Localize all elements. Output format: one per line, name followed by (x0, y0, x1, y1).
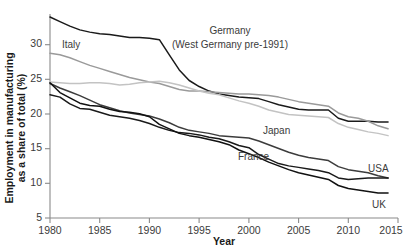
x-tick-label: 2000 (237, 224, 261, 236)
series-label-germany-sub: (West Germany pre-1991) (172, 39, 288, 50)
series-label-france: France (238, 151, 270, 162)
x-axis-ticks: 1980 1985 1990 1995 2000 2005 2010 2015 (38, 218, 403, 236)
y-axis-title-line1: Employment in manufacturing (3, 52, 15, 203)
x-tick-label: 1985 (88, 224, 112, 236)
y-tick-label: 30 (30, 37, 42, 49)
x-tick-label: 1990 (138, 224, 162, 236)
x-tick-label: 1995 (187, 224, 211, 236)
series-label-italy: Italy (62, 39, 80, 50)
x-tick-label: 2010 (337, 224, 361, 236)
series-label-usa: USA (368, 163, 389, 174)
y-tick-label: 5 (36, 211, 42, 223)
series-label-japan: Japan (263, 125, 290, 136)
y-tick-label: 10 (30, 176, 42, 188)
line-chart: 5 10 15 20 25 30 1980 1985 1990 1995 200… (0, 0, 408, 251)
x-axis-title: Year (213, 235, 235, 247)
series-line-japan (50, 81, 388, 135)
series-label-germany: Germany (209, 25, 250, 36)
x-tick-label: 2005 (287, 224, 311, 236)
chart-page: 5 10 15 20 25 30 1980 1985 1990 1995 200… (0, 0, 408, 251)
series-line-france (50, 84, 388, 178)
series-label-uk: UK (372, 199, 386, 210)
x-tick-label: 2015 (379, 224, 403, 236)
y-axis-ticks: 5 10 15 20 25 30 (30, 37, 50, 222)
y-tick-label: 15 (30, 141, 42, 153)
y-axis-title-line2: as a share of total (%) (15, 74, 27, 183)
y-tick-label: 20 (30, 107, 42, 119)
x-tick-label: 1980 (38, 224, 62, 236)
y-tick-label: 25 (30, 72, 42, 84)
